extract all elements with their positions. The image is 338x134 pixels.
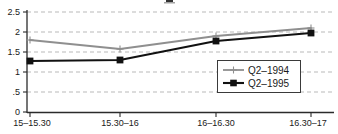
- x-tick-label-2: 16–16.30: [197, 118, 235, 128]
- star-marker-1994-1: [117, 46, 124, 53]
- square-marker-1995-2: [213, 38, 220, 45]
- series-line-q2-1994: [30, 28, 311, 49]
- y-tick-label-1: 1: [15, 67, 20, 77]
- square-marker-1995-0: [27, 58, 34, 65]
- x-axis: 15–15.30 15.30–16 16–16.30 16.30–17: [13, 113, 334, 129]
- y-axis: 2.5 2 1.5 1 .5 0: [7, 7, 27, 117]
- truncated-title-fragment: [164, 0, 175, 4]
- series-markers-q2-1994: [27, 25, 315, 53]
- legend-label-q2-1995: Q2–1995: [248, 78, 290, 89]
- x-tick-label-3: 16.30–17: [289, 118, 327, 128]
- y-tick-label-1.5: 1.5: [7, 47, 20, 57]
- square-marker-1995-3: [308, 30, 315, 37]
- x-tick-label-1: 15.30–16: [101, 118, 139, 128]
- chart-canvas: 2.5 2 1.5 1 .5 0 15–15.30 15.30–16 16–16…: [0, 0, 338, 134]
- y-tick-label-2: 2: [15, 27, 20, 37]
- y-tick-label-0: 0: [15, 107, 20, 117]
- y-tick-label-0.5: .5: [12, 87, 20, 97]
- legend-square-icon-1995: [230, 80, 237, 87]
- chart-legend[interactable]: Q2–1994 Q2–1995: [218, 61, 301, 93]
- series-q2-1995: [27, 30, 315, 65]
- series-q2-1994: [27, 25, 315, 53]
- legend-label-q2-1994: Q2–1994: [248, 65, 290, 76]
- x-tick-label-0: 15–15.30: [13, 118, 51, 128]
- series-line-q2-1995: [30, 33, 311, 61]
- square-marker-1995-1: [117, 57, 124, 64]
- series-markers-q2-1995: [27, 30, 315, 65]
- y-tick-label-2.5: 2.5: [7, 7, 20, 17]
- line-chart: 2.5 2 1.5 1 .5 0 15–15.30 15.30–16 16–16…: [0, 0, 338, 134]
